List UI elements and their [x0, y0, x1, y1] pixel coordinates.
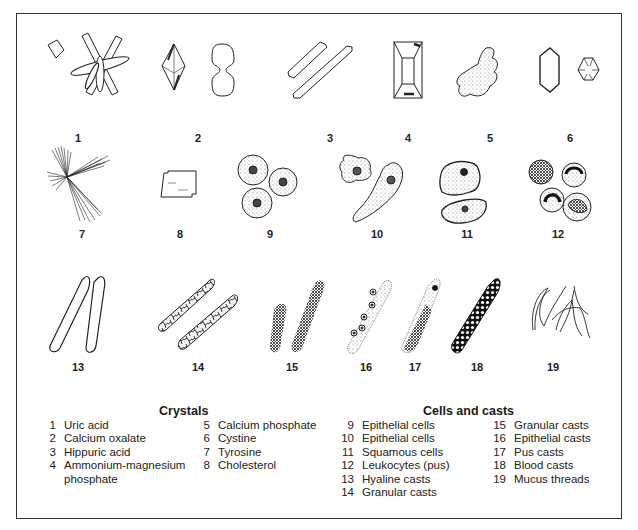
legend-item: 11Squamous cells	[332, 446, 450, 459]
legend-item-label: Hyaline casts	[362, 473, 430, 486]
figure-number-7: 7	[67, 228, 97, 240]
figure-number-8: 8	[165, 228, 195, 240]
ammonium-magnesium-phosphate-crystal-icon	[394, 42, 422, 98]
legend-item-label: Cystine	[218, 432, 256, 445]
legend-item-label-continued: phosphate	[34, 473, 118, 486]
figure-number-3: 3	[315, 132, 345, 144]
figure-number-16: 16	[351, 361, 381, 373]
legend-item: 6Cystine	[188, 432, 316, 445]
legend-item-number: 9	[332, 419, 362, 432]
legend-item-label: Squamous cells	[362, 446, 443, 459]
legend-item-label: Granular casts	[362, 486, 437, 499]
granular-casts-icon	[158, 279, 237, 349]
legend-item-number: 5	[188, 419, 218, 432]
squamous-cells-icon	[440, 162, 486, 224]
figure-number-11: 11	[452, 228, 482, 240]
legend-item-label: Granular casts	[514, 419, 589, 432]
figure-number-6: 6	[555, 132, 585, 144]
calcium-oxalate-crystal-icon	[162, 44, 234, 96]
legend-item: 13Hyaline casts	[332, 473, 450, 486]
legend-item-number: 10	[332, 432, 362, 445]
figure-number-14: 14	[183, 361, 213, 373]
legend-item: 2Calcium oxalate	[34, 432, 185, 445]
legend-item-label: Cholesterol	[218, 459, 276, 472]
legend-item-number: 3	[34, 446, 64, 459]
epithelial-casts-icon	[348, 280, 392, 353]
legend-item-label: Mucus threads	[514, 473, 589, 486]
figure-number-10: 10	[362, 228, 392, 240]
mucus-threads-icon	[532, 286, 590, 338]
leukocytes-icon	[529, 160, 591, 221]
hippuric-acid-crystal-icon	[288, 42, 352, 98]
crystals-legend-col2: 5Calcium phosphate6Cystine7Tyrosine8Chol…	[188, 419, 316, 473]
legend-item-number: 16	[484, 432, 514, 445]
legend-item-label: Epithelial cells	[362, 419, 435, 432]
figure-number-17: 17	[400, 361, 430, 373]
legend-item: 19Mucus threads	[484, 473, 591, 486]
figure-number-19: 19	[538, 361, 568, 373]
legend-item-label: Calcium oxalate	[64, 432, 146, 445]
legend-item-number: 13	[332, 473, 362, 486]
legend-item-number: 14	[332, 486, 362, 499]
legend-item: 7Tyrosine	[188, 446, 316, 459]
crystals-legend-col1: 1Uric acid2Calcium oxalate3Hippuric acid…	[34, 419, 185, 486]
tyrosine-crystal-icon	[47, 146, 110, 222]
figure-number-5: 5	[475, 132, 505, 144]
legend-item: 12Leukocytes (pus)	[332, 459, 450, 472]
figure-number-2: 2	[183, 132, 213, 144]
legend-item: 14Granular casts	[332, 486, 450, 499]
figure-number-9: 9	[255, 228, 285, 240]
legend-item-number: 7	[188, 446, 218, 459]
legend-item-label: Epithelial cells	[362, 432, 435, 445]
granular-casts-dense-icon	[270, 281, 324, 353]
legend-item: 16Epithelial casts	[484, 432, 591, 445]
epithelial-cells-round-icon	[238, 155, 297, 218]
legend-item-label: Uric acid	[64, 419, 109, 432]
figure-number-12: 12	[543, 228, 573, 240]
hyaline-casts-icon	[50, 277, 105, 353]
figure-number-1: 1	[63, 132, 93, 144]
figure-number-18: 18	[462, 361, 492, 373]
legend-item-number: 2	[34, 432, 64, 445]
legend-item-number: 4	[34, 459, 64, 472]
figure-number-15: 15	[277, 361, 307, 373]
uric-acid-crystal-icon	[48, 33, 130, 95]
legend-item-label: Epithelial casts	[514, 432, 591, 445]
legend-item-label: Pus casts	[514, 446, 564, 459]
legend-item-label: Leukocytes (pus)	[362, 459, 450, 472]
legend-item: 3Hippuric acid	[34, 446, 185, 459]
legend-item-number: 18	[484, 459, 514, 472]
legend-item: 8Cholesterol	[188, 459, 316, 472]
legend-item-number: 11	[332, 446, 362, 459]
legend-item: 10Epithelial cells	[332, 432, 450, 445]
cholesterol-crystal-icon	[161, 171, 196, 197]
figure-number-4: 4	[393, 132, 423, 144]
legend-item: 17Pus casts	[484, 446, 591, 459]
legend-item: 9Epithelial cells	[332, 419, 450, 432]
legend-item-label: Tyrosine	[218, 446, 261, 459]
legend-item-label: Ammonium-magnesium	[64, 459, 185, 472]
epithelial-cells-irregular-icon	[340, 155, 403, 222]
legend-item: 1Uric acid	[34, 419, 185, 432]
legend-item: 4Ammonium-magnesium	[34, 459, 185, 472]
legend-item-number: 8	[188, 459, 218, 472]
cystine-crystal-icon	[540, 48, 599, 92]
pus-casts-icon	[402, 279, 440, 353]
legend-item-label: Calcium phosphate	[218, 419, 316, 432]
figure-number-13: 13	[63, 361, 93, 373]
calcium-phosphate-crystal-icon	[457, 48, 498, 97]
legend-item: 15Granular casts	[484, 419, 591, 432]
legend-item-label: Hippuric acid	[64, 446, 130, 459]
legend-item-number: 12	[332, 459, 362, 472]
legend-item: 18Blood casts	[484, 459, 591, 472]
legend-item-label: Blood casts	[514, 459, 573, 472]
blood-casts-icon	[452, 279, 500, 353]
legend-item-number: 19	[484, 473, 514, 486]
legend-item: 5Calcium phosphate	[188, 419, 316, 432]
cells-casts-legend-col2: 15Granular casts16Epithelial casts17Pus …	[484, 419, 591, 486]
legend-item-number: 6	[188, 432, 218, 445]
legend-item-number: 17	[484, 446, 514, 459]
legend-item-number: 15	[484, 419, 514, 432]
crystals-legend-title: Crystals	[159, 404, 208, 418]
legend-item-number: 1	[34, 419, 64, 432]
